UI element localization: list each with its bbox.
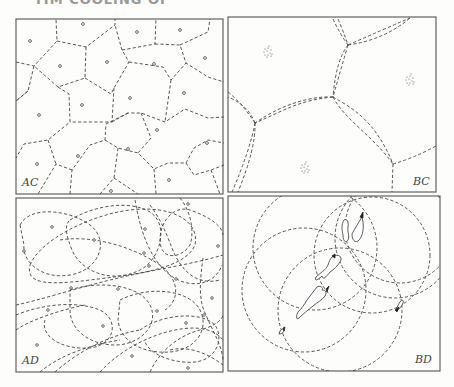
site-point bbox=[156, 129, 159, 132]
site-point bbox=[148, 265, 151, 268]
voronoi-edge bbox=[57, 19, 115, 47]
cluster-dot bbox=[412, 83, 413, 84]
site-point bbox=[36, 163, 39, 166]
cluster-dot bbox=[306, 168, 307, 169]
voronoi-edge bbox=[114, 178, 138, 194]
site-point bbox=[168, 179, 171, 182]
site-point bbox=[179, 29, 182, 32]
cluster-dot bbox=[268, 45, 269, 46]
site-point bbox=[136, 31, 139, 34]
site-point bbox=[129, 97, 132, 100]
boundary-line bbox=[348, 18, 410, 45]
panel-ac-label: AC bbox=[21, 176, 39, 189]
site-point bbox=[110, 190, 113, 193]
cluster-dot bbox=[271, 53, 272, 54]
range-circle bbox=[242, 228, 366, 352]
site-point bbox=[203, 314, 206, 317]
voronoi-edge bbox=[48, 140, 56, 164]
island-north-a bbox=[342, 219, 349, 241]
panel-ad-frame bbox=[16, 198, 223, 372]
site-point bbox=[187, 367, 190, 370]
site-point bbox=[211, 297, 214, 300]
site-point bbox=[187, 203, 190, 206]
cluster-dot bbox=[264, 54, 265, 55]
voronoi-edge bbox=[16, 19, 57, 66]
site-point bbox=[106, 61, 109, 64]
site-point bbox=[38, 114, 41, 117]
overlapping-loops bbox=[16, 198, 223, 372]
cluster-dot bbox=[301, 170, 302, 171]
site-point bbox=[117, 288, 120, 291]
boundary-line bbox=[333, 19, 348, 45]
site-point bbox=[204, 57, 207, 60]
site-points bbox=[23, 203, 220, 370]
cluster-dot bbox=[270, 49, 271, 50]
boundary-line bbox=[255, 97, 333, 123]
voronoi-edge bbox=[112, 109, 224, 122]
panel-bc: BC bbox=[228, 17, 436, 192]
panel-ad-label: AD bbox=[21, 354, 39, 367]
panel-bd: BD bbox=[228, 173, 454, 372]
cluster-dot bbox=[303, 172, 304, 173]
site-point bbox=[217, 245, 220, 248]
cluster-dot bbox=[409, 82, 410, 83]
cluster-dot bbox=[267, 47, 268, 48]
cluster-dot bbox=[300, 167, 301, 168]
site-point bbox=[93, 239, 96, 242]
voronoi-edge bbox=[211, 170, 220, 194]
cluster-dot bbox=[411, 80, 412, 81]
cluster-dot bbox=[405, 79, 406, 80]
voronoi-edge bbox=[100, 148, 118, 194]
cluster-dot bbox=[408, 84, 409, 85]
site-point bbox=[29, 40, 32, 43]
boundary-line bbox=[228, 97, 255, 123]
boundary-line bbox=[333, 97, 393, 164]
site-point bbox=[127, 148, 130, 151]
boundary-line bbox=[255, 97, 333, 123]
boundary-line bbox=[392, 164, 393, 192]
cluster-dot bbox=[266, 56, 267, 57]
panel-bc-frame bbox=[228, 17, 436, 192]
site-point bbox=[153, 63, 156, 66]
voronoi-edge bbox=[16, 91, 28, 101]
cluster-dot bbox=[267, 54, 268, 55]
cluster-dot bbox=[307, 165, 308, 166]
boundary-line bbox=[232, 123, 255, 192]
site-point bbox=[77, 155, 80, 158]
panel-ac-frame bbox=[16, 19, 223, 194]
site-point bbox=[144, 228, 147, 231]
cluster-dot bbox=[307, 171, 308, 172]
boundary-line bbox=[228, 92, 255, 123]
site-point bbox=[175, 278, 178, 281]
cluster-dot bbox=[412, 77, 413, 78]
voronoi-edge bbox=[70, 88, 114, 122]
range-circles bbox=[242, 173, 454, 372]
boundary-bands bbox=[228, 18, 436, 192]
voronoi-edge bbox=[38, 164, 72, 194]
boundary-line bbox=[333, 45, 348, 97]
voronoi-edge bbox=[138, 113, 224, 169]
island-north-b bbox=[352, 217, 363, 242]
panel-bc-label: BC bbox=[412, 175, 430, 188]
cluster-dot bbox=[303, 166, 304, 167]
cluster-dot bbox=[406, 76, 407, 77]
panel-bd-label: BD bbox=[414, 353, 432, 366]
cluster-dot bbox=[413, 81, 414, 82]
voronoi-edge bbox=[16, 66, 34, 101]
site-point bbox=[59, 65, 62, 68]
site-point bbox=[82, 23, 85, 26]
figure-canvas: TIM COOLING OF AC BC bbox=[0, 0, 454, 387]
site-point bbox=[185, 322, 188, 325]
cluster-dot bbox=[266, 50, 267, 51]
cluster-dot bbox=[304, 163, 305, 164]
boundary-line bbox=[333, 97, 393, 164]
site-point bbox=[206, 142, 209, 145]
site-point bbox=[183, 92, 186, 95]
cluster-dot bbox=[409, 75, 410, 76]
voronoi-edge bbox=[16, 87, 70, 158]
site-point bbox=[156, 310, 159, 313]
range-circle bbox=[278, 248, 402, 372]
voronoi-edge bbox=[165, 80, 171, 122]
site-point bbox=[47, 309, 50, 312]
boundary-line bbox=[338, 19, 348, 45]
